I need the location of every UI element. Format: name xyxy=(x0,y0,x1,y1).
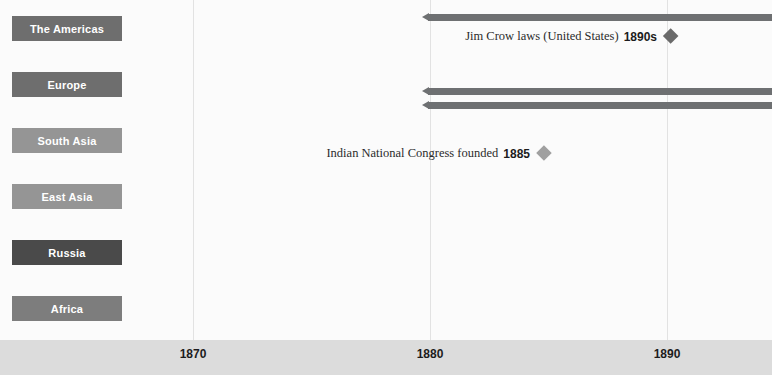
event-annotation[interactable]: Indian National Congress founded1885 xyxy=(326,146,549,161)
category-label-russia[interactable]: Russia xyxy=(12,240,122,265)
category-label-east-asia[interactable]: East Asia xyxy=(12,184,122,209)
event-bar[interactable] xyxy=(428,88,772,95)
axis-tick-label-1890: 1890 xyxy=(654,347,681,361)
category-label-south-asia[interactable]: South Asia xyxy=(12,128,122,153)
category-label-text: Russia xyxy=(48,247,85,259)
annotation-diamond-marker-icon xyxy=(663,28,679,44)
category-label-text: East Asia xyxy=(42,191,93,203)
plot-area xyxy=(0,0,772,340)
annotation-diamond-marker-icon xyxy=(536,145,552,161)
category-label-text: Europe xyxy=(47,79,86,91)
category-label-the-americas[interactable]: The Americas xyxy=(12,16,122,41)
annotation-date: 1890s xyxy=(624,29,657,43)
gridline-1870 xyxy=(193,0,194,340)
gridline-1880 xyxy=(430,0,431,340)
category-label-text: South Asia xyxy=(37,135,96,147)
event-bar[interactable] xyxy=(428,102,772,109)
timeline-chart: The AmericasEuropeSouth AsiaEast AsiaRus… xyxy=(0,0,772,375)
gridline-1890 xyxy=(667,0,668,340)
axis-tick-label-1880: 1880 xyxy=(417,347,444,361)
annotation-text: Jim Crow laws (United States) xyxy=(465,29,618,44)
event-bar[interactable] xyxy=(428,14,772,21)
category-label-africa[interactable]: Africa xyxy=(12,296,122,321)
event-annotation[interactable]: Jim Crow laws (United States)1890s xyxy=(465,29,676,44)
annotation-date: 1885 xyxy=(503,146,530,160)
category-label-text: Africa xyxy=(51,303,83,315)
annotation-text: Indian National Congress founded xyxy=(326,146,498,161)
category-label-text: The Americas xyxy=(30,23,104,35)
category-label-europe[interactable]: Europe xyxy=(12,72,122,97)
axis-tick-label-1870: 1870 xyxy=(180,347,207,361)
